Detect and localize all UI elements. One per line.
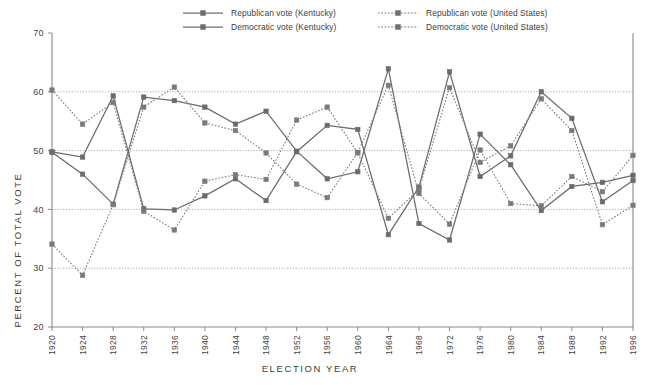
x-tick-label: 1944 xyxy=(231,335,241,355)
data-point-dem_us-1948 xyxy=(264,151,268,155)
series-line-dem_ky xyxy=(52,69,633,240)
data-point-rep_us-1964 xyxy=(386,216,390,220)
x-tick-label: 1996 xyxy=(628,335,638,355)
data-point-rep_us-1988 xyxy=(570,128,574,132)
y-axis-title: PERCENT OF TOTAL VOTE xyxy=(12,172,23,327)
x-tick-label: 1976 xyxy=(475,335,485,355)
data-point-rep_us-1996 xyxy=(631,203,635,207)
x-tick-label: 1936 xyxy=(170,335,180,355)
x-tick-label: 1924 xyxy=(78,335,88,355)
data-point-dem_ky-1920 xyxy=(50,150,54,154)
data-point-rep_ky-1984 xyxy=(539,90,543,94)
data-point-dem_us-1956 xyxy=(325,195,329,199)
series-line-rep_us xyxy=(52,88,633,230)
legend-swatch-marker-0 xyxy=(201,11,205,15)
data-point-dem_us-1964 xyxy=(386,83,390,87)
data-point-dem_ky-1996 xyxy=(631,173,635,177)
chart-legend: Republican vote (Kentucky)Democratic vot… xyxy=(183,8,548,32)
data-point-rep_ky-1964 xyxy=(386,232,390,236)
data-point-rep_us-1992 xyxy=(600,222,604,226)
data-point-dem_ky-1984 xyxy=(539,208,543,212)
x-tick-label: 1960 xyxy=(353,335,363,355)
data-point-dem_ky-1968 xyxy=(417,221,421,225)
data-point-dem_ky-1924 xyxy=(80,172,84,176)
y-tick-label: 70 xyxy=(33,28,44,38)
x-tick-label: 1928 xyxy=(108,335,118,355)
election-vote-line-chart: Republican vote (Kentucky)Democratic vot… xyxy=(0,0,655,385)
x-tick-label: 1980 xyxy=(506,335,516,355)
legend-swatch-marker-1 xyxy=(201,25,205,29)
data-point-dem_us-1996 xyxy=(631,153,635,157)
data-point-dem_ky-1952 xyxy=(294,149,298,153)
data-point-dem_ky-1936 xyxy=(172,98,176,102)
legend-swatch-marker-3 xyxy=(396,25,400,29)
data-point-dem_us-1924 xyxy=(80,273,84,277)
data-point-rep_ky-1980 xyxy=(508,154,512,158)
data-point-dem_ky-1980 xyxy=(508,163,512,167)
data-point-dem_us-1936 xyxy=(172,85,176,89)
data-point-dem_us-1972 xyxy=(447,222,451,226)
data-point-dem_ky-1940 xyxy=(203,105,207,109)
data-point-rep_us-1936 xyxy=(172,228,176,232)
data-point-rep_ky-1948 xyxy=(264,198,268,202)
x-tick-label: 1988 xyxy=(567,335,577,355)
data-point-rep_us-1956 xyxy=(325,105,329,109)
data-point-dem_ky-1932 xyxy=(142,95,146,99)
legend-label-2: Republican vote (United States) xyxy=(426,8,547,18)
data-point-dem_us-1988 xyxy=(570,174,574,178)
y-tick-label: 30 xyxy=(33,263,44,273)
data-point-rep_ky-1988 xyxy=(570,116,574,120)
data-point-rep_ky-1944 xyxy=(233,177,237,181)
data-point-dem_us-1928 xyxy=(111,203,115,207)
x-tick-label: 1952 xyxy=(292,335,302,355)
data-point-rep_us-1932 xyxy=(142,209,146,213)
data-series xyxy=(50,67,635,278)
series-line-rep_ky xyxy=(52,72,633,235)
data-point-rep_us-1972 xyxy=(447,85,451,89)
x-tick-label: 1972 xyxy=(445,335,455,355)
data-point-dem_ky-1964 xyxy=(386,67,390,71)
y-tick-labels: 203040506070 xyxy=(33,28,44,332)
data-point-rep_us-1948 xyxy=(264,177,268,181)
data-point-dem_us-1984 xyxy=(539,204,543,208)
data-point-rep_ky-1960 xyxy=(356,127,360,131)
data-point-rep_us-1920 xyxy=(50,88,54,92)
data-point-rep_us-1952 xyxy=(294,118,298,122)
x-tick-label: 1992 xyxy=(598,335,608,355)
data-point-rep_ky-1928 xyxy=(111,94,115,98)
chart-figure: Republican vote (Kentucky)Democratic vot… xyxy=(0,0,655,385)
data-point-dem_ky-1992 xyxy=(600,180,604,184)
data-point-rep_ky-1936 xyxy=(172,208,176,212)
legend-label-0: Republican vote (Kentucky) xyxy=(231,8,336,18)
data-point-rep_ky-1976 xyxy=(478,174,482,178)
x-tick-label: 1956 xyxy=(322,335,332,355)
data-point-rep_us-1928 xyxy=(111,100,115,104)
x-tick-label: 1964 xyxy=(384,335,394,355)
gridlines xyxy=(52,92,633,268)
x-tick-label: 1948 xyxy=(261,335,271,355)
data-point-dem_us-1952 xyxy=(294,182,298,186)
data-point-dem_ky-1956 xyxy=(325,177,329,181)
data-point-dem_ky-1944 xyxy=(233,122,237,126)
x-tick-label: 1920 xyxy=(47,335,57,355)
data-point-rep_ky-1924 xyxy=(80,155,84,159)
y-tick-label: 60 xyxy=(33,87,44,97)
data-point-dem_us-1992 xyxy=(600,190,604,194)
x-tick-label: 1940 xyxy=(200,335,210,355)
x-tick-label: 1932 xyxy=(139,335,149,355)
data-point-rep_ky-1996 xyxy=(631,178,635,182)
data-point-rep_ky-1956 xyxy=(325,123,329,127)
data-point-dem_ky-1976 xyxy=(478,132,482,136)
data-point-dem_ky-1988 xyxy=(570,184,574,188)
data-point-dem_us-1940 xyxy=(203,121,207,125)
data-point-dem_us-1932 xyxy=(142,105,146,109)
y-tick-label: 50 xyxy=(33,146,44,156)
x-tick-label: 1968 xyxy=(414,335,424,355)
data-point-dem_us-1980 xyxy=(508,201,512,205)
data-point-dem_us-1960 xyxy=(356,150,360,154)
data-point-dem_us-1968 xyxy=(417,191,421,195)
data-point-dem_ky-1948 xyxy=(264,109,268,113)
data-point-rep_us-1940 xyxy=(203,179,207,183)
data-point-dem_us-1920 xyxy=(50,242,54,246)
data-point-rep_ky-1940 xyxy=(203,194,207,198)
